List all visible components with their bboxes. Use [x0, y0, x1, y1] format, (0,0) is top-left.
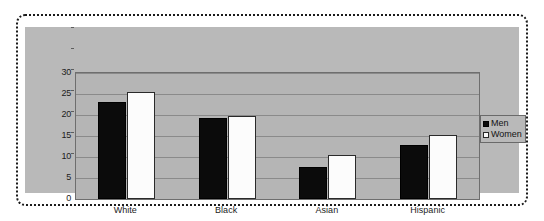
chart-screenshot: 051015202530 Men Women WhiteBlackAsianHi…: [0, 0, 544, 221]
legend-label-women: Women: [491, 130, 522, 139]
y-axis-tick-mark: [71, 132, 74, 133]
y-axis-tick-mark: [71, 69, 74, 70]
bar-hispanic-men: [400, 145, 428, 199]
bar-black-men: [199, 118, 227, 199]
y-axis-tick-label: 15: [61, 131, 71, 140]
legend-item-women: Women: [483, 129, 522, 140]
y-axis-tick-mark: [71, 48, 74, 49]
x-axis-category-label: White: [114, 206, 137, 215]
legend-item-men: Men: [483, 118, 522, 129]
legend-swatch-women-icon: [483, 132, 489, 138]
y-axis-tick-label: 5: [66, 173, 71, 182]
chart-legend: Men Women: [480, 115, 526, 143]
bar-white-women: [127, 92, 155, 199]
bar-black-women: [228, 116, 256, 199]
bar-asian-men: [299, 167, 327, 199]
y-axis-tick-mark: [71, 27, 74, 28]
y-axis-tick-mark: [71, 90, 74, 91]
bar-white-men: [98, 102, 126, 199]
bar-asian-women: [328, 155, 356, 199]
legend-swatch-men-icon: [483, 121, 489, 127]
x-axis-category-label: Hispanic: [410, 206, 445, 215]
legend-label-men: Men: [491, 119, 509, 128]
bar-hispanic-women: [429, 135, 457, 199]
y-axis-tick-label: 10: [61, 152, 71, 161]
y-axis-tick-label: 30: [61, 68, 71, 77]
y-axis-tick-mark: [71, 111, 74, 112]
x-axis-category-label: Black: [215, 206, 237, 215]
y-axis: 051015202530: [47, 72, 71, 200]
chart-canvas: 051015202530 Men Women WhiteBlackAsianHi…: [25, 27, 519, 193]
y-axis-tick-label: 20: [61, 110, 71, 119]
x-axis-category-label: Asian: [316, 206, 339, 215]
gridline: [76, 73, 479, 74]
y-axis-tick-label: 0: [66, 194, 71, 203]
plot-area: [75, 72, 480, 200]
y-axis-tick-label: 25: [61, 89, 71, 98]
y-axis-tick-mark: [71, 153, 74, 154]
